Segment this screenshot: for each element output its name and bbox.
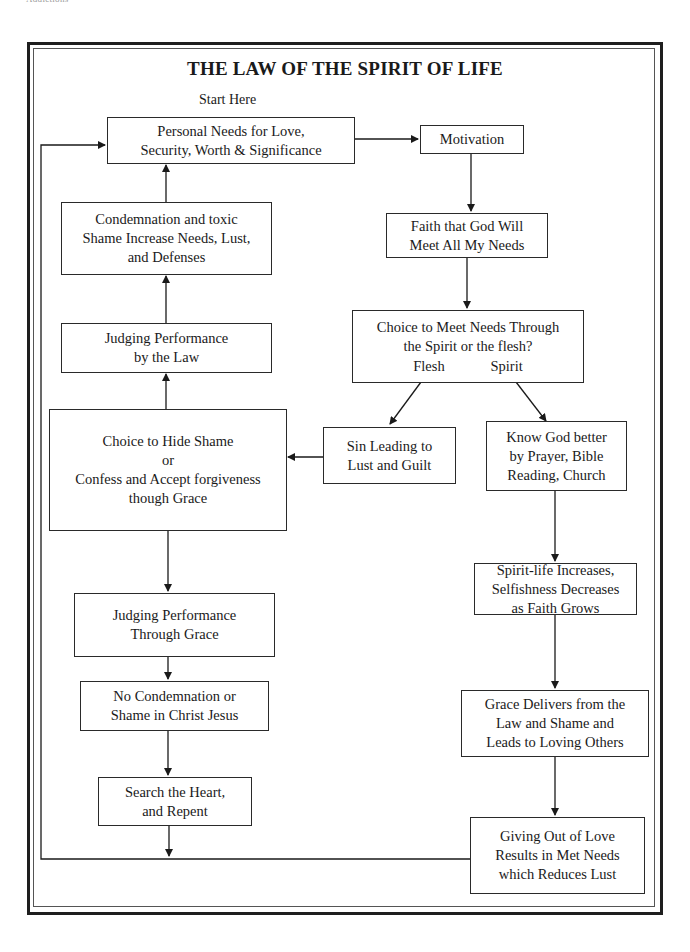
node-text: Search the Heart, [125,783,225,802]
node-text: by the Law [134,348,199,367]
node-text: Motivation [440,130,504,149]
node-text: Faith that God Will [411,217,523,236]
node-giving: Giving Out of Love Results in Met Needs … [470,817,645,894]
node-text: Know God better [506,428,607,447]
node-text: and Repent [142,802,208,821]
node-text: the Spirit or the flesh? [404,337,533,356]
node-text: Confess and Accept forgiveness [75,470,260,489]
node-no-condemnation: No Condemnation or Shame in Christ Jesus [80,681,269,731]
node-text: Security, Worth & Significance [140,141,321,160]
node-text: Selfishness Decreases [492,580,620,599]
node-text: Sin Leading to [347,437,432,456]
node-text: Results in Met Needs [495,846,619,865]
node-text: Grace Delivers from the [485,695,626,714]
branch-flesh-label: Flesh [413,357,444,376]
node-text: Condemnation and toxic [95,210,238,229]
node-text: Shame in Christ Jesus [111,706,239,725]
node-search-heart: Search the Heart, and Repent [98,777,252,826]
node-choice-hide: Choice to Hide Shame or Confess and Acce… [49,409,287,531]
branch-labels: Flesh Spirit [390,357,545,376]
node-text: or [162,451,174,470]
node-text: Spirit-life Increases, [497,561,615,580]
node-text: Personal Needs for Love, [157,122,304,141]
node-condemnation: Condemnation and toxic Shame Increase Ne… [61,202,272,275]
node-spirit-life: Spirit-life Increases, Selfishness Decre… [474,563,637,615]
node-judging-grace: Judging Performance Through Grace [74,593,275,657]
node-judging-law: Judging Performance by the Law [61,323,272,373]
node-text: Shame Increase Needs, Lust, [83,229,251,248]
node-sin: Sin Leading to Lust and Guilt [323,427,456,484]
node-motivation: Motivation [420,125,524,154]
node-text: by Prayer, Bible [509,447,603,466]
node-text: and Defenses [128,248,206,267]
node-text: Choice to Hide Shame [103,432,234,451]
node-text: No Condemnation or [113,687,235,706]
node-text: Lust and Guilt [348,456,432,475]
node-text: Meet All My Needs [410,236,525,255]
node-text: Judging Performance [113,606,237,625]
node-text: Choice to Meet Needs Through [377,318,560,337]
node-grace-delivers: Grace Delivers from the Law and Shame an… [461,690,649,757]
node-text: though Grace [129,489,208,508]
node-text: Law and Shame and [496,714,614,733]
node-faith: Faith that God Will Meet All My Needs [386,213,548,258]
node-personal-needs: Personal Needs for Love, Security, Worth… [107,117,355,164]
node-know-god: Know God better by Prayer, Bible Reading… [486,421,627,491]
node-text: Through Grace [130,625,218,644]
node-text: Judging Performance [105,329,229,348]
node-choice-spirit-flesh: Choice to Meet Needs Through the Spirit … [352,310,584,383]
node-text: Leads to Loving Others [486,733,623,752]
node-text: Giving Out of Love [500,827,615,846]
node-text: as Faith Grows [512,599,600,618]
node-text: which Reduces Lust [499,865,617,884]
branch-spirit-label: Spirit [491,357,523,376]
node-text: Reading, Church [507,466,605,485]
